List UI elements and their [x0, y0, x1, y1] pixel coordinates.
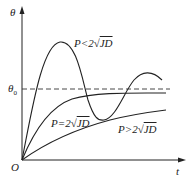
- theta0-subscript: 0: [13, 89, 17, 97]
- theta0-label: θ0: [8, 83, 17, 97]
- overdamped-label-radical: JD: [144, 123, 157, 135]
- underdamped-label-radical: JD: [100, 37, 113, 49]
- plot-area: [0, 0, 193, 182]
- overdamped-curve: [22, 110, 166, 160]
- x-axis-label: t: [176, 166, 179, 177]
- critical-label-prefix: P=2: [51, 117, 71, 129]
- y-axis-label: θ: [10, 7, 15, 18]
- underdamped-curve: [22, 42, 162, 160]
- y-axis-arrow-icon: [20, 6, 25, 14]
- underdamped-label: P<2√JD: [74, 38, 113, 49]
- overdamped-label: P>2√JD: [118, 124, 157, 135]
- damping-response-diagram: θ t O θ0 P<2√JD P=2√JD P>2√JD: [0, 0, 193, 182]
- critical-label-radical: JD: [77, 117, 90, 129]
- overdamped-label-prefix: P>2: [118, 123, 138, 135]
- x-axis-arrow-icon: [178, 158, 186, 163]
- underdamped-label-prefix: P<2: [74, 37, 94, 49]
- origin-label: O: [11, 162, 19, 173]
- critical-label: P=2√JD: [51, 118, 90, 129]
